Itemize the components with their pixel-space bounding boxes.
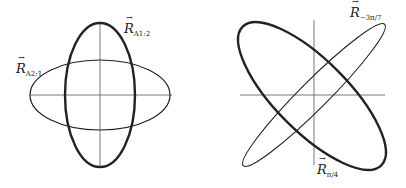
- right-diagram-canvas: [200, 0, 406, 188]
- left-diagram: RA1:2 RA2:1: [0, 0, 200, 188]
- label-r-minus-3pi-7: R−3π/7: [350, 6, 382, 22]
- left-diagram-canvas: [0, 0, 200, 188]
- label-r-pi-4: Rπ/4: [317, 163, 338, 179]
- label-r-a2-1: RA2:1: [16, 62, 42, 78]
- right-diagram: R−3π/7 Rπ/4: [200, 0, 406, 188]
- label-r-a1-2: RA1:2: [124, 22, 150, 38]
